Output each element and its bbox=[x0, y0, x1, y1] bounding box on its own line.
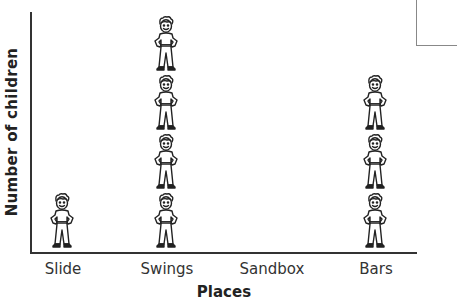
x-axis bbox=[30, 252, 417, 254]
y-axis bbox=[30, 12, 32, 254]
y-axis-label: Number of children bbox=[3, 48, 21, 217]
column-slide bbox=[42, 191, 82, 250]
category-label-bars: Bars bbox=[359, 260, 392, 278]
child-figure-icon bbox=[149, 133, 183, 191]
child-figure-icon bbox=[149, 192, 183, 250]
category-label-slide: Slide bbox=[45, 260, 82, 278]
child-figure-icon bbox=[149, 74, 183, 132]
x-axis-label: Places bbox=[197, 283, 251, 301]
key-box bbox=[416, 0, 457, 46]
child-figure-icon bbox=[358, 74, 392, 132]
category-label-swings: Swings bbox=[141, 260, 194, 278]
child-figure-icon bbox=[358, 133, 392, 191]
child-figure-icon bbox=[45, 192, 79, 250]
column-bars bbox=[355, 73, 395, 250]
category-label-sandbox: Sandbox bbox=[240, 260, 305, 278]
child-figure-icon bbox=[358, 192, 392, 250]
child-figure-icon bbox=[149, 15, 183, 73]
column-swings bbox=[146, 14, 186, 250]
